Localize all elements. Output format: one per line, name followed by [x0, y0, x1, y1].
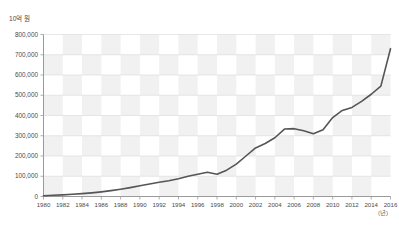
- plot-area: [0, 0, 399, 230]
- y-axis-tick-label: 400,000: [0, 112, 38, 119]
- y-axis-tick-label: 0: [0, 193, 38, 200]
- x-axis-tick-label: 2016: [379, 201, 399, 208]
- line-chart: 10억 원 0100,000200,000300,000400,000500,0…: [0, 0, 399, 230]
- y-axis-tick-label: 500,000: [0, 91, 38, 98]
- plot-svg: [0, 0, 399, 230]
- y-axis-tick-label: 800,000: [0, 31, 38, 38]
- y-axis-tick-label: 700,000: [0, 51, 38, 58]
- y-axis-tick-label: 100,000: [0, 172, 38, 179]
- y-axis-tick-label: 300,000: [0, 132, 38, 139]
- x-axis-unit-label: (년): [378, 208, 388, 217]
- y-axis-tick-label: 200,000: [0, 152, 38, 159]
- y-axis-tick-label: 600,000: [0, 71, 38, 78]
